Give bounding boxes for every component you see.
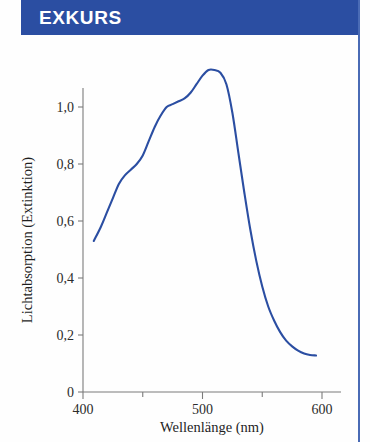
x-tick-label: 500	[192, 402, 213, 417]
x-tick-label: 600	[312, 402, 333, 417]
y-tick-label: 0,8	[57, 157, 75, 172]
y-tick-label: 0	[67, 385, 74, 400]
y-tick-label: 0,2	[57, 328, 75, 343]
y-tick-label: 0,6	[57, 214, 75, 229]
x-tick-label: 400	[73, 402, 94, 417]
absorption-spectrum-chart: 00,20,40,60,81,0 400500600 Wellenlänge (…	[0, 0, 370, 442]
y-axis-tick-labels: 00,20,40,60,81,0	[57, 100, 75, 400]
x-axis-title: Wellenlänge (nm)	[160, 419, 264, 436]
x-axis-tick-labels: 400500600	[73, 402, 333, 417]
y-tick-label: 0,4	[57, 271, 75, 286]
x-axis-ticks	[83, 392, 322, 399]
y-tick-label: 1,0	[57, 100, 75, 115]
absorption-curve	[94, 69, 316, 355]
y-axis-title: Lichtabsorption (Extinktion)	[19, 157, 36, 323]
y-axis-ticks	[78, 107, 83, 392]
page-root: EXKURS 00,20,40,60,81,0 400500600 Wellen…	[0, 0, 370, 442]
